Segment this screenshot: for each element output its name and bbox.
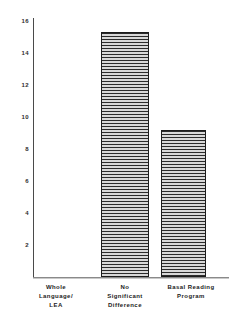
y-tick-label-16: 16: [7, 18, 29, 24]
x-label-basal-reading-program: Basal Reading Program: [155, 283, 227, 301]
x-label-whole-language-lea: Whole Language/ LEA: [26, 283, 86, 310]
y-axis-line: [33, 18, 34, 277]
y-tick-label-8: 8: [7, 146, 29, 152]
y-tick-label-12: 12: [7, 82, 29, 88]
y-tick-label-6: 6: [7, 178, 29, 184]
x-axis-line: [33, 277, 229, 278]
x-label-no-significant-difference: No Significant Difference: [93, 283, 157, 310]
y-tick-label-10: 10: [7, 114, 29, 120]
plot-area: 16 14 12 10 8 6 4 2 Whole Language/ LEA …: [0, 0, 242, 316]
bar-no-significant-difference: [101, 32, 149, 277]
y-tick-label-4: 4: [7, 210, 29, 216]
bar-chart: 16 14 12 10 8 6 4 2 Whole Language/ LEA …: [0, 0, 242, 316]
y-tick-label-14: 14: [7, 50, 29, 56]
y-tick-label-2: 2: [7, 242, 29, 248]
bar-basal-reading-program: [161, 130, 206, 277]
